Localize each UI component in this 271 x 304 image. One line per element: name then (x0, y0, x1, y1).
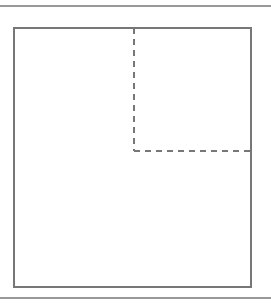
outer-rectangle (14, 28, 251, 287)
diagram-canvas (0, 0, 271, 304)
diagram-figure (0, 0, 271, 304)
